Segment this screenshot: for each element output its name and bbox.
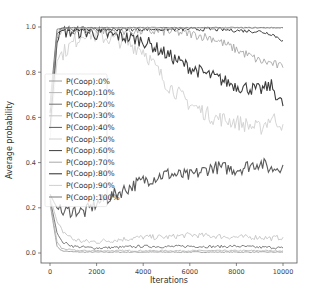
- legend-label: P(Coop):50%: [66, 135, 115, 144]
- x-tick-label: 2000: [88, 268, 105, 276]
- y-tick-label: 1.0: [26, 23, 36, 31]
- legend-label: P(Coop):90%: [66, 181, 115, 190]
- y-axis-ticks: 0.00.20.40.60.81.0: [26, 23, 41, 257]
- x-axis-ticks: 0200040006000800010000: [48, 263, 293, 276]
- legend-label: P(Coop):30%: [66, 111, 115, 120]
- x-tick-label: 0: [48, 268, 52, 276]
- legend-label: P(Coop):10%: [66, 88, 115, 97]
- legend-label: P(Coop):80%: [66, 169, 115, 178]
- y-tick-label: 0.4: [26, 159, 36, 167]
- legend-label: P(Coop):20%: [66, 100, 115, 109]
- y-tick-label: 0.0: [26, 249, 36, 257]
- y-axis-label: Average probability: [5, 101, 14, 179]
- x-tick-label: 10000: [273, 268, 294, 276]
- legend-label: P(Coop):100%: [66, 193, 120, 202]
- line-chart: 0200040006000800010000 0.00.20.40.60.81.…: [0, 0, 319, 297]
- legend: P(Coop):0%P(Coop):10%P(Coop):20%P(Coop):…: [45, 74, 120, 207]
- x-axis-label: Iterations: [150, 276, 188, 285]
- x-tick-label: 8000: [228, 268, 245, 276]
- x-tick-label: 4000: [135, 268, 152, 276]
- y-tick-label: 0.8: [26, 69, 36, 77]
- legend-label: P(Coop):40%: [66, 123, 115, 132]
- y-tick-label: 0.2: [26, 204, 36, 212]
- legend-label: P(Coop):70%: [66, 158, 115, 167]
- legend-label: P(Coop):60%: [66, 146, 115, 155]
- y-tick-label: 0.6: [26, 114, 36, 122]
- x-tick-label: 6000: [182, 268, 199, 276]
- legend-label: P(Coop):0%: [66, 77, 110, 86]
